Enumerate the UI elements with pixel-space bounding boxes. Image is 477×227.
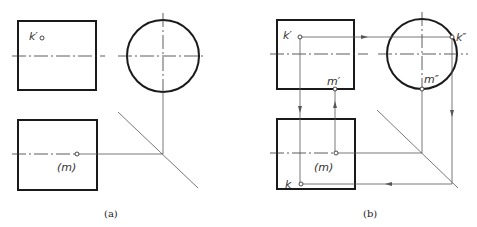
- label-k-prime-b: k′: [283, 29, 292, 42]
- orthographic-projection-diagram: k′ (m) (a): [0, 0, 477, 227]
- label-m-top-a: (m): [57, 161, 76, 174]
- arrow-up-icon: [333, 101, 337, 108]
- figure-b: k′ m′ k″ m″ (m) k (b): [270, 12, 468, 219]
- point-m-double-prime-b: [420, 87, 424, 91]
- label-m-top-b: (m): [314, 161, 333, 174]
- arrow-right-icon: [361, 35, 368, 39]
- point-k-prime-a: [40, 36, 44, 40]
- arrow-down-icon: [298, 106, 302, 113]
- figure-a: k′ (m) (a): [12, 13, 206, 219]
- top-view-rect-a: [18, 120, 97, 190]
- point-k-top-b: [299, 182, 303, 186]
- arrow-down-icon: [450, 110, 454, 117]
- caption-a: (a): [104, 208, 118, 219]
- point-k-double-prime-b: [450, 35, 454, 39]
- caption-b: (b): [363, 208, 377, 219]
- point-m-top-b: [334, 151, 338, 155]
- label-m-double-prime-b: m″: [424, 73, 440, 86]
- label-m-prime-b: m′: [327, 75, 341, 88]
- point-k-prime-b: [298, 35, 302, 39]
- point-m-a: [75, 152, 79, 156]
- miter-line-a: [118, 112, 198, 188]
- arrow-left-icon: [385, 182, 392, 186]
- label-k-top-b: k: [285, 178, 292, 191]
- miter-line-b: [377, 110, 458, 188]
- label-k-double-prime-b: k″: [456, 31, 467, 44]
- label-k-prime-a: k′: [29, 30, 38, 43]
